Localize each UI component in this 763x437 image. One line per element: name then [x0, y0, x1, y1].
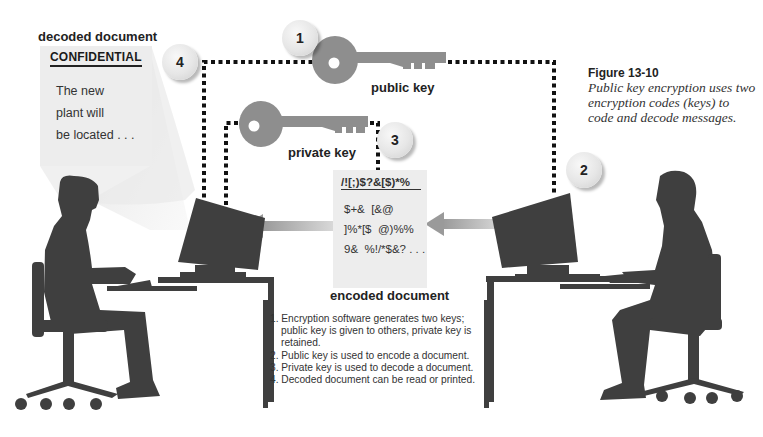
step-badge-2: 2	[566, 152, 602, 188]
private-key-label: private key	[288, 145, 356, 160]
decoded-document-line: be located . . .	[56, 128, 135, 142]
decoded-document-line: The new	[56, 84, 104, 98]
encoded-document-line: $+& [&@	[344, 203, 394, 215]
step-item: 2. Public key is used to encode a docume…	[270, 350, 478, 362]
public-key-label: public key	[371, 80, 435, 95]
figure-caption: Figure 13-10 Public key encryption uses …	[588, 66, 758, 125]
encoded-document-title: /![;)$?&[$)*%	[341, 176, 421, 190]
encoded-document-line: 9& %!/*$&? . . .	[344, 243, 425, 255]
public-key-icon	[312, 36, 446, 84]
step-item: 3. Private key is used to decode a docum…	[270, 362, 478, 374]
private-key-icon	[239, 101, 368, 147]
steps-list: 1. Encryption software generates two key…	[270, 313, 478, 386]
step-badge-4: 4	[162, 44, 198, 80]
arrow-to-encoded-doc	[425, 212, 501, 236]
step-item: 1. Encryption software generates two key…	[270, 313, 478, 350]
step-item: 4. Decoded document can be read or print…	[270, 374, 478, 386]
right-user-silhouette	[486, 171, 744, 404]
step-badge-3: 3	[377, 122, 413, 158]
decoded-document-label: decoded document	[38, 29, 157, 44]
encoded-document-line: ]%*[$ @)%%	[344, 223, 414, 235]
decoded-document-line: plant will	[56, 106, 104, 120]
figure-number: Figure 13-10	[588, 66, 758, 80]
encoded-document-label: encoded document	[330, 288, 449, 303]
step-badge-1: 1	[282, 20, 318, 56]
decoded-document-title: CONFIDENTIAL	[50, 50, 142, 67]
figure-caption-text: Public key encryption uses two encryptio…	[588, 80, 758, 125]
